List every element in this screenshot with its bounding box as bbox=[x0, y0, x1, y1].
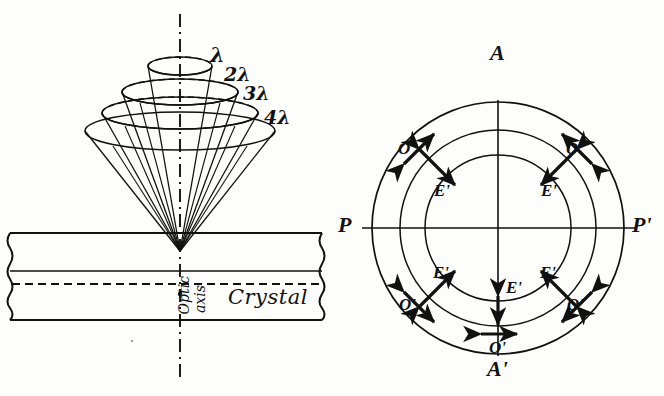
pol-label-e-prime-bottom: E' bbox=[506, 278, 522, 298]
left-panel-group bbox=[8, 14, 325, 378]
pol-label-o-prime-upper-left: O' bbox=[398, 139, 415, 159]
wavelength-label-4: 4λ bbox=[264, 106, 291, 128]
pol-label-o-prime-upper-right: O' bbox=[566, 139, 583, 159]
crystal-label: Crystal bbox=[228, 285, 308, 309]
wavelength-label-1: λ bbox=[210, 42, 225, 67]
wavelength-label-3: 3λ bbox=[243, 82, 270, 104]
pol-label-e-prime-lower-left: E' bbox=[433, 263, 449, 283]
axis-label-p: P bbox=[338, 212, 351, 238]
mark-e-prime-upper-left bbox=[419, 149, 455, 185]
pol-label-e-prime-upper-left: E' bbox=[434, 181, 450, 201]
pol-label-o-prime-lower-right: O' bbox=[567, 295, 584, 315]
pol-label-o-prime-lower-left: O' bbox=[399, 295, 416, 315]
pol-label-e-prime-upper-right: E' bbox=[541, 181, 557, 201]
optic-axis-label-axis: axis bbox=[192, 285, 208, 313]
optic-axis-label-optic: Optic bbox=[176, 276, 192, 314]
axis-label-a: A bbox=[490, 40, 505, 66]
axis-label-p-prime: P' bbox=[632, 212, 652, 238]
pol-label-o-prime-bottom: O' bbox=[489, 338, 506, 358]
axis-label-a-prime: A' bbox=[487, 356, 508, 382]
pol-label-e-prime-lower-right: E' bbox=[540, 263, 556, 283]
figure-root: λ 2λ 3λ 4λ Crystal Optic axis A A' P P' … bbox=[0, 0, 664, 396]
figure-canvas bbox=[0, 0, 664, 396]
